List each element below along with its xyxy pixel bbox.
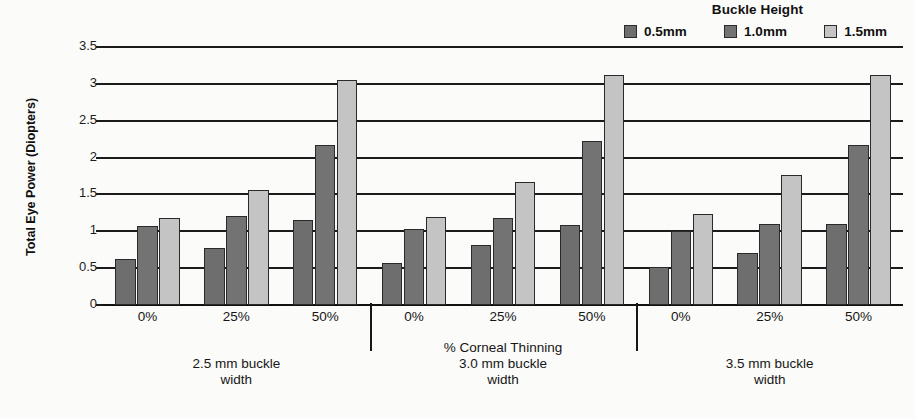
bar: [404, 229, 425, 305]
bar: [137, 226, 158, 305]
x-axis-title: % Corneal Thinning: [444, 340, 562, 356]
bar-chart: Buckle Height 0.5mm 1.0mm 1.5mm Total Ey…: [0, 0, 915, 419]
bar: [582, 141, 603, 305]
panel-caption-line: width: [192, 372, 280, 388]
bar: [781, 175, 802, 305]
bar: [159, 218, 180, 305]
y-axis-tick-label: 2.5: [57, 112, 97, 127]
y-axis-tick-label: 0: [57, 296, 97, 311]
y-axis-tick-label: 0.5: [57, 259, 97, 274]
y-axis-tick-mark: [96, 267, 103, 269]
x-axis-tick-label: 0%: [404, 309, 424, 324]
panel-captions: 2.5 mm bucklewidth% Corneal Thinning3.0 …: [103, 340, 903, 410]
bar: [826, 224, 847, 305]
y-axis-tick-mark: [96, 157, 103, 159]
panel-caption-line: width: [444, 372, 562, 388]
x-axis-tick-label: 50%: [845, 309, 872, 324]
bar: [204, 248, 225, 305]
plot-area: 3.532.521.510.50: [103, 47, 903, 305]
x-axis-tick-label: 25%: [489, 309, 516, 324]
x-axis-tick-label: 50%: [312, 309, 339, 324]
legend-swatch-icon: [624, 25, 637, 38]
bar: [471, 245, 492, 305]
y-axis-tick-mark: [96, 120, 103, 122]
x-axis-tick-label: 25%: [223, 309, 250, 324]
bar: [426, 217, 447, 305]
bar: [560, 225, 581, 305]
y-axis-tick-label: 1.5: [57, 185, 97, 200]
y-axis-tick-label: 2: [57, 149, 97, 164]
bar: [493, 218, 514, 305]
x-axis-tick-label: 0%: [671, 309, 691, 324]
legend-item-label: 1.0mm: [744, 24, 787, 39]
legend-swatch-icon: [724, 25, 737, 38]
legend-item-2: 1.5mm: [824, 24, 887, 39]
x-axis-tick-label: 0%: [138, 309, 158, 324]
panel-caption-line: width: [726, 372, 814, 388]
panel-caption: % Corneal Thinning3.0 mm bucklewidth: [444, 340, 562, 388]
bar: [848, 145, 869, 305]
y-axis-tick-mark: [96, 46, 103, 48]
chart-legend: Buckle Height 0.5mm 1.0mm 1.5mm: [600, 2, 915, 46]
bar: [337, 80, 358, 305]
bar: [515, 182, 536, 305]
panel-caption: 2.5 mm bucklewidth: [192, 356, 280, 388]
legend-item-label: 1.5mm: [844, 24, 887, 39]
bar: [693, 214, 714, 305]
x-axis-tick-label: 25%: [756, 309, 783, 324]
bar: [382, 263, 403, 305]
bar: [737, 253, 758, 305]
y-axis-title: Total Eye Power (Diopters): [24, 52, 38, 302]
bar: [226, 216, 247, 305]
bar: [649, 267, 670, 305]
legend-title: Buckle Height: [600, 2, 915, 17]
bars-layer: [103, 47, 903, 305]
y-axis-tick-label: 3: [57, 75, 97, 90]
x-axis-labels: 0%25%50%0%25%50%0%25%50%: [103, 309, 903, 335]
y-axis-tick-mark: [96, 230, 103, 232]
bar: [671, 231, 692, 305]
x-axis-tick-label: 50%: [578, 309, 605, 324]
bar: [248, 190, 269, 305]
bar: [115, 259, 136, 305]
y-axis-tick-mark: [96, 83, 103, 85]
panel-caption-line: 2.5 mm buckle: [192, 356, 280, 372]
panel-caption-line: 3.0 mm buckle: [444, 356, 562, 372]
legend-item-0: 0.5mm: [624, 24, 687, 39]
bar: [315, 145, 336, 305]
legend-items: 0.5mm 1.0mm 1.5mm: [600, 24, 915, 39]
y-axis-tick-label: 3.5: [57, 38, 97, 53]
panel-caption-line: 3.5 mm buckle: [726, 356, 814, 372]
bar: [604, 75, 625, 305]
y-axis-tick-mark: [96, 193, 103, 195]
legend-swatch-icon: [824, 25, 837, 38]
legend-item-1: 1.0mm: [724, 24, 787, 39]
y-axis-tick-mark: [96, 304, 103, 306]
panel-caption: 3.5 mm bucklewidth: [726, 356, 814, 388]
bar: [870, 75, 891, 305]
y-axis-tick-label: 1: [57, 222, 97, 237]
legend-item-label: 0.5mm: [644, 24, 687, 39]
bar: [759, 224, 780, 305]
bar: [293, 220, 314, 306]
